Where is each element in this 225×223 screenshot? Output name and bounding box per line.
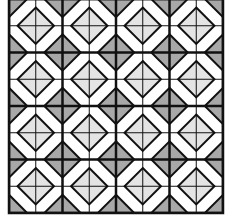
tiled-diamond-pattern	[0, 0, 225, 223]
